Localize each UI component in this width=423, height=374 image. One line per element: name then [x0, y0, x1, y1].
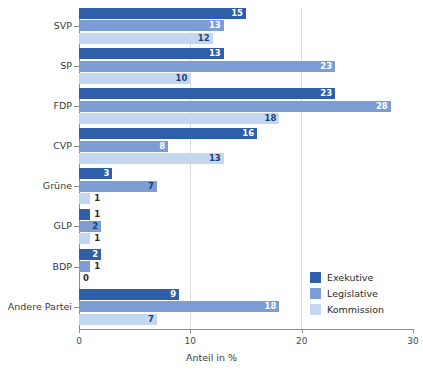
bar-value-label: 8: [157, 141, 166, 152]
bar-grüne-kommission: [79, 193, 90, 204]
bar-value-label: 13: [207, 20, 221, 31]
x-axis-tick-label: 30: [398, 336, 423, 346]
y-axis-category-label: BDP: [0, 261, 72, 272]
bar-cvp-exekutive: [79, 128, 257, 139]
bar-value-label: 7: [145, 181, 154, 192]
gridline-20: [301, 8, 302, 329]
bar-fdp-legislative: [79, 101, 391, 112]
x-axis-tick-mark: [413, 329, 414, 333]
legend-swatch-icon-legislative: [310, 288, 321, 299]
bar-value-label: 28: [374, 101, 388, 112]
x-axis-tick-label: 0: [64, 336, 94, 346]
bar-fdp-exekutive: [79, 88, 335, 99]
bar-value-label: 1: [94, 193, 100, 204]
bar-value-label: 7: [145, 314, 154, 325]
bar-value-label: 18: [262, 301, 276, 312]
x-axis-tick-mark: [302, 329, 303, 333]
bar-glp-kommission: [79, 233, 90, 244]
bar-glp-exekutive: [79, 209, 90, 220]
bar-andere-partei-legislative: [79, 301, 279, 312]
bar-value-label: 23: [318, 88, 332, 99]
bar-bdp-legislative: [79, 261, 90, 272]
bar-value-label: 1: [94, 209, 100, 220]
bar-svp-kommission: [79, 33, 213, 44]
legend-item-exekutive: Exekutive: [310, 270, 384, 285]
legend-label-legislative: Legislative: [327, 288, 378, 299]
y-axis-category-label: Andere Partei: [0, 301, 72, 312]
legend-swatch-icon-kommission: [310, 304, 321, 315]
legend-label-kommission: Kommission: [327, 304, 384, 315]
y-axis-category-label: SVP: [0, 20, 72, 31]
y-axis-category-label: SP: [0, 60, 72, 71]
bar-andere-partei-exekutive: [79, 289, 179, 300]
x-axis-title: Anteil in %: [0, 352, 423, 363]
x-axis-tick-mark: [190, 329, 191, 333]
bar-sp-legislative: [79, 61, 335, 72]
y-axis-category-label: CVP: [0, 140, 72, 151]
bar-svp-exekutive: [79, 8, 246, 19]
legend-swatch-icon-exekutive: [310, 272, 321, 283]
bar-sp-exekutive: [79, 48, 224, 59]
bar-value-label: 23: [318, 61, 332, 72]
bar-cvp-kommission: [79, 153, 224, 164]
bar-value-label: 15: [229, 8, 243, 19]
bar-value-label: 13: [207, 48, 221, 59]
bar-value-label: 16: [240, 128, 254, 139]
bar-fdp-kommission: [79, 113, 279, 124]
bar-value-label: 18: [262, 113, 276, 124]
bar-svp-legislative: [79, 20, 224, 31]
bar-value-label: 2: [90, 221, 99, 232]
legend: Exekutive Legislative Kommission: [310, 270, 384, 318]
bar-value-label: 10: [173, 73, 187, 84]
y-axis-category-label: GLP: [0, 220, 72, 231]
x-axis-tick-label: 10: [175, 336, 205, 346]
x-axis-tick-label: 20: [287, 336, 317, 346]
bar-cvp-legislative: [79, 141, 168, 152]
bar-chart: SVP151312SP132310FDP232818CVP16813Grüne3…: [0, 0, 423, 374]
legend-item-legislative: Legislative: [310, 286, 384, 301]
bar-value-label: 13: [207, 153, 221, 164]
bar-value-label: 0: [83, 273, 89, 284]
bar-value-label: 1: [94, 261, 100, 272]
legend-label-exekutive: Exekutive: [327, 272, 373, 283]
bar-value-label: 2: [90, 249, 99, 260]
bar-value-label: 9: [168, 289, 177, 300]
bar-value-label: 1: [94, 233, 100, 244]
bar-value-label: 12: [196, 33, 210, 44]
legend-item-kommission: Kommission: [310, 302, 384, 317]
x-axis-line: [79, 329, 413, 330]
y-axis-category-label: Grüne: [0, 180, 72, 191]
x-axis-tick-mark: [79, 329, 80, 333]
bar-value-label: 3: [101, 168, 110, 179]
y-axis-category-label: FDP: [0, 100, 72, 111]
